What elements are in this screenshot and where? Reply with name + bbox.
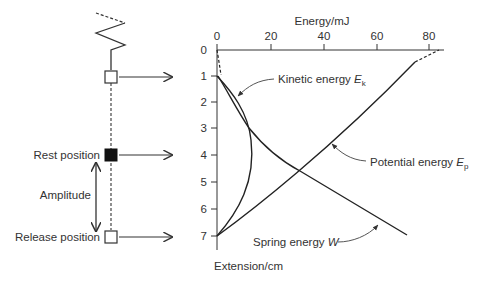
spring-annotation: Spring energy W bbox=[253, 225, 378, 248]
physics-diagram: Rest position Amplitude Release position… bbox=[0, 0, 488, 282]
x-axis-title: Energy/mJ bbox=[295, 15, 350, 27]
mass-top-icon bbox=[105, 71, 117, 83]
mass-rest-icon bbox=[105, 149, 117, 161]
y-tick-label: 3 bbox=[201, 122, 207, 134]
label-amplitude: Amplitude bbox=[40, 189, 91, 201]
spring-support-dashed bbox=[96, 13, 125, 23]
svg-text:Kinetic energy Ek: Kinetic energy Ek bbox=[278, 73, 367, 88]
potential-energy-dashed bbox=[415, 50, 439, 62]
x-tick-label: 60 bbox=[371, 30, 384, 42]
potential-annotation: Potential energy Ep bbox=[332, 144, 469, 171]
y-tick-label: 0 bbox=[201, 44, 207, 56]
y-tick-label: 1 bbox=[201, 70, 207, 82]
kinetic-energy-curve bbox=[217, 76, 252, 236]
mass-release-icon bbox=[105, 231, 117, 243]
x-tick-label: 0 bbox=[214, 30, 220, 42]
kinetic-annotation: Kinetic energy Ek bbox=[238, 73, 367, 96]
label-release-position: Release position bbox=[15, 231, 100, 243]
y-ticks bbox=[211, 76, 217, 236]
svg-text:Spring energy W: Spring energy W bbox=[253, 236, 340, 248]
spring-energy-dashed bbox=[217, 50, 221, 75]
x-ticks bbox=[217, 44, 429, 50]
energy-chart: Energy/mJ 0 20 40 60 80 0 1 2 3 4 bbox=[201, 15, 469, 272]
y-tick-label: 7 bbox=[201, 230, 207, 242]
y-tick-label: 6 bbox=[201, 203, 207, 215]
spring-apparatus: Rest position Amplitude Release position bbox=[15, 13, 172, 243]
y-tick-label: 5 bbox=[201, 176, 207, 188]
y-tick-label: 4 bbox=[201, 149, 208, 161]
svg-text:Potential energy Ep: Potential energy Ep bbox=[370, 156, 469, 171]
label-rest-position: Rest position bbox=[34, 149, 100, 161]
y-axis-title: Extension/cm bbox=[214, 260, 283, 272]
y-tick-label: 2 bbox=[201, 96, 207, 108]
x-tick-label: 80 bbox=[423, 30, 436, 42]
spring-icon bbox=[96, 23, 125, 70]
x-tick-label: 40 bbox=[318, 30, 331, 42]
x-tick-label: 20 bbox=[265, 30, 278, 42]
